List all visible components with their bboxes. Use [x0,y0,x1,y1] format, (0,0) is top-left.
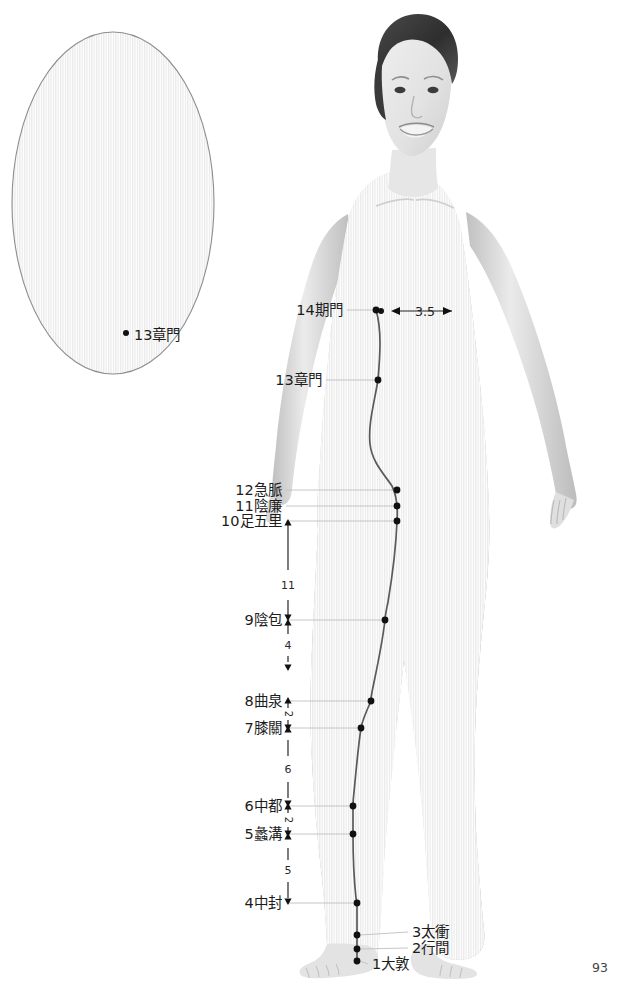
measure-value-0: 11 [281,579,295,592]
inset-point-label: 13章門 [134,323,180,344]
acupoint-11 [394,503,401,510]
inset-illustration [10,30,220,378]
measure-value-2: 2 [283,711,294,717]
inset-point-marker [123,330,129,336]
chart-page: 14期門13章門12急脈11陰廉10足五里9陰包8曲泉7膝關6中都5蠡溝4中封3… [0,0,624,989]
point-label-13: 13章門 [275,373,322,388]
measure-value-3: 6 [285,763,292,776]
point-label-6: 6中都 [244,799,282,814]
horizontal-measure-value: 3.5 [415,304,435,319]
point-label-8: 8曲泉 [244,694,282,709]
arrow-5-bottom [284,899,291,906]
arrow-4-bottom [284,665,291,672]
acupoint-10 [394,518,401,525]
artwork-layer [0,0,624,989]
point-label-5: 5蠡溝 [244,827,282,842]
point-label-4: 4中封 [244,896,282,911]
acupoint-3 [354,932,361,939]
point-label-1: 1大敦 [372,957,410,972]
measure-value-5: 5 [285,864,292,877]
measure-value-1: 4 [285,639,292,652]
acupoint-7 [358,725,365,732]
point-label-10: 10足五里 [221,514,282,529]
acupoint-4 [354,900,361,907]
acupoint-9 [382,617,389,624]
page-number: 93 [592,960,608,975]
acupoint-5 [350,831,357,838]
acupoint-12 [394,487,401,494]
acupoint-2 [354,946,361,953]
main-figure-illustration [266,14,577,980]
point-label-14: 14期門 [296,303,343,318]
point-label-12: 12急脈 [235,483,282,498]
point-label-2: 2行間 [412,941,450,956]
measure-value-4: 2 [283,817,294,823]
point-label-3: 3太衝 [412,925,450,940]
acupoint-13 [375,377,382,384]
acupoint-6 [350,803,357,810]
point-label-7: 7膝關 [244,721,282,736]
point-label-9: 9陰包 [244,613,282,628]
acupoint-8 [368,698,375,705]
point-label-11: 11陰廉 [235,499,282,514]
arrow-2a-tick [284,726,291,733]
acupoint-1 [354,958,361,965]
